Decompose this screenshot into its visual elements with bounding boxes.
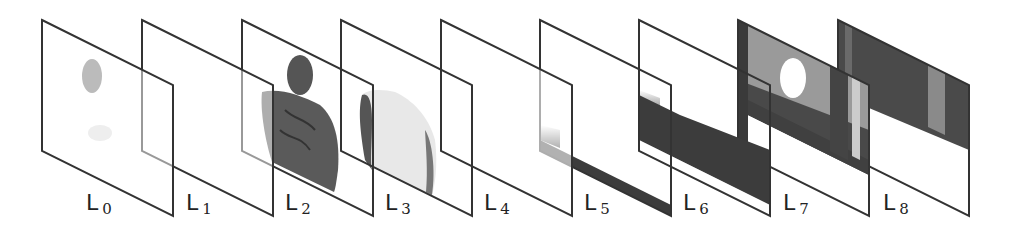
layer-label-5: L5 [584,192,610,214]
layer-4 [441,20,572,216]
layer-label-1: L1 [186,192,212,214]
layer-label-0: L0 [86,192,112,214]
layer-label-4: L4 [484,192,510,214]
layer-label-6: L6 [683,192,709,214]
layer-label-3: L3 [385,192,411,214]
layer-label-8: L8 [883,192,909,214]
layer-label-7: L7 [783,192,809,214]
layer-label-2: L2 [285,192,311,214]
